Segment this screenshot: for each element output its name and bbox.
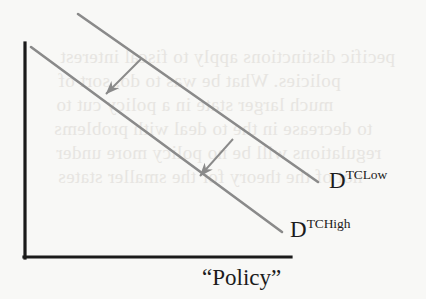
curve-label-base: D <box>329 168 346 193</box>
curve-label-superscript: TCLow <box>346 167 388 182</box>
curve-label-base: D <box>290 217 307 242</box>
demand-curve-tc-high <box>31 47 282 232</box>
curve-label-superscript: TCHigh <box>307 216 351 231</box>
figure-canvas: pecific distinctions apply to fiscal int… <box>0 0 426 299</box>
shift-arrow-upper <box>106 59 141 94</box>
curve-label-d-tc-low: DTCLow <box>329 168 387 192</box>
x-axis-label: “Policy” <box>202 266 281 289</box>
curve-label-d-tc-high: DTCHigh <box>290 217 350 241</box>
shift-arrow-lower <box>200 139 233 176</box>
demand-curve-tc-low <box>78 14 318 182</box>
diagram-graphics <box>0 0 426 299</box>
